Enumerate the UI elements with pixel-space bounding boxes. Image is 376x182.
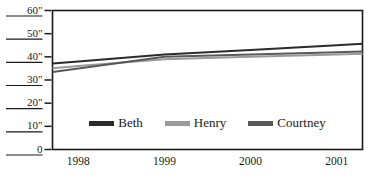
y-tick-label: 10" — [2, 120, 43, 131]
legend-label: Beth — [118, 116, 143, 130]
y-tick-label: 40" — [2, 51, 43, 62]
y-tick-label: 60" — [2, 5, 43, 16]
x-tick-label: 1998 — [48, 155, 108, 167]
legend-item-courtney[interactable]: Courtney — [248, 116, 325, 130]
y-tick-label: 0 — [2, 144, 43, 155]
legend-label: Courtney — [277, 116, 325, 130]
chart-legend: BethHenryCourtney — [52, 112, 363, 134]
x-tick-label: 2000 — [221, 155, 281, 167]
legend-swatch-icon — [248, 121, 273, 126]
x-tick-label: 2001 — [307, 155, 367, 167]
legend-swatch-icon — [165, 121, 190, 126]
y-tick-label: 30" — [2, 74, 43, 85]
legend-item-henry[interactable]: Henry — [165, 116, 227, 130]
legend-label: Henry — [194, 116, 227, 130]
y-tick-label: 50" — [2, 28, 43, 39]
y-tick-label: 20" — [2, 97, 43, 108]
legend-swatch-icon — [89, 121, 114, 126]
line-chart: 60"50"40"30"20"10"0 1998199920002001 Bet… — [0, 0, 376, 182]
legend-item-beth[interactable]: Beth — [89, 116, 143, 130]
x-tick-label: 1999 — [134, 155, 194, 167]
